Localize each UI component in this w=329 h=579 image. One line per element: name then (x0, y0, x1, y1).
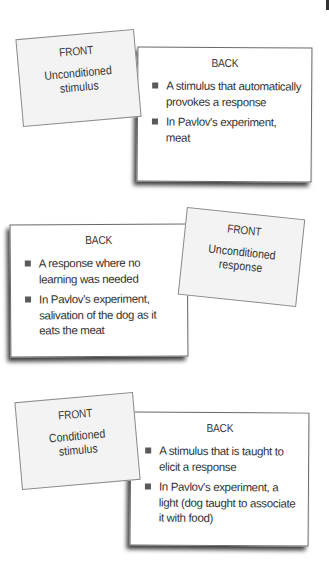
definition-text: In Pavlov's experiment, salivation of th… (39, 293, 156, 337)
flashcard-front-1: FRONT Unconditioned stimulus (15, 29, 141, 127)
flashcard-front-3: FRONT Conditioned stimulus (14, 392, 140, 490)
card-back-heading: BACK (21, 233, 176, 246)
square-bullet-icon (25, 260, 31, 266)
card-term: Unconditioned stimulus (26, 62, 131, 99)
square-bullet-icon (145, 447, 151, 453)
card-back-heading: BACK (149, 56, 301, 69)
square-bullet-icon (145, 483, 151, 489)
definition-text: In Pavlov's experiment, a light (dog tau… (159, 481, 296, 524)
square-bullet-icon (152, 82, 158, 88)
definition-list: A stimulus that is taught to elicit a re… (131, 443, 309, 527)
definition-list: A stimulus that automatically provokes a… (138, 78, 311, 146)
card-back-heading: BACK (142, 421, 298, 434)
flashcard-front-2: FRONT Unconditioned response (178, 207, 306, 307)
definition-text: A response where no learning was needed (39, 257, 140, 285)
definition-text: A stimulus that automatically provokes a… (166, 80, 301, 108)
card-front-heading: FRONT (24, 41, 128, 62)
square-bullet-icon (152, 118, 158, 124)
definition-item: A stimulus that automatically provokes a… (152, 78, 303, 110)
card-term: Conditioned stimulus (25, 425, 130, 462)
definition-item: A stimulus that is taught to elicit a re… (145, 443, 300, 475)
definition-item: In Pavlov's experiment, a light (dog tau… (145, 479, 300, 527)
definition-item: In Pavlov's experiment, salivation of th… (25, 291, 179, 339)
definition-text: A stimulus that is taught to elicit a re… (159, 445, 284, 473)
flashcard-back-2: BACK A response where no learning was ne… (10, 223, 189, 357)
card-term: Unconditioned response (189, 240, 294, 279)
definition-list: A response where no learning was needed … (11, 255, 188, 339)
flashcard-back-1: BACK A stimulus that automatically provo… (137, 46, 313, 182)
definition-item: A response where no learning was needed (25, 255, 179, 287)
definition-text: In Pavlov's experiment, meat (166, 116, 277, 144)
flashcard-back-3: BACK A stimulus that is taught to elicit… (130, 411, 310, 546)
square-bullet-icon (25, 296, 31, 302)
card-front-heading: FRONT (23, 404, 127, 425)
definition-item: In Pavlov's experiment, meat (152, 114, 303, 146)
card-front-heading: FRONT (192, 219, 296, 242)
